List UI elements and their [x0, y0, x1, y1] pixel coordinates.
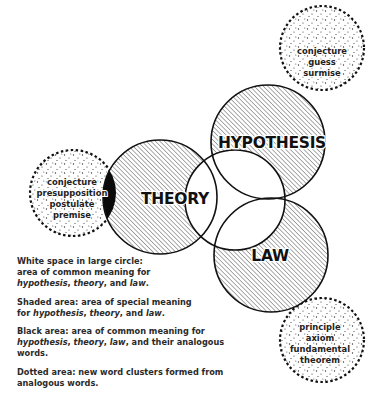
cluster-word: theorem: [300, 355, 340, 365]
label-hypothesis: HYPOTHESIS: [218, 134, 326, 152]
cluster-word: conjecture: [297, 46, 347, 56]
label-theory: THEORY: [141, 190, 210, 208]
cluster-word: surmise: [303, 68, 341, 78]
cluster-word: presupposition: [37, 188, 108, 198]
legend-black: Black area: area of common meaning for h…: [17, 326, 247, 359]
cluster-word: principle: [299, 322, 341, 332]
legend: White space in large circle: area of com…: [17, 256, 247, 393]
legend-white: White space in large circle: area of com…: [17, 256, 247, 289]
cluster-word: conjecture: [47, 177, 97, 187]
label-law: LAW: [251, 247, 289, 265]
cluster-word: fundamental: [290, 344, 350, 354]
cluster-word: premise: [53, 210, 91, 220]
cluster-word: postulate: [50, 199, 95, 209]
cluster-word: guess: [308, 57, 336, 67]
legend-dotted: Dotted area: new word clusters formed fr…: [17, 367, 247, 389]
legend-shaded: Shaded area: area of special meaning for…: [17, 297, 247, 319]
cluster-word: axiom: [306, 333, 335, 343]
